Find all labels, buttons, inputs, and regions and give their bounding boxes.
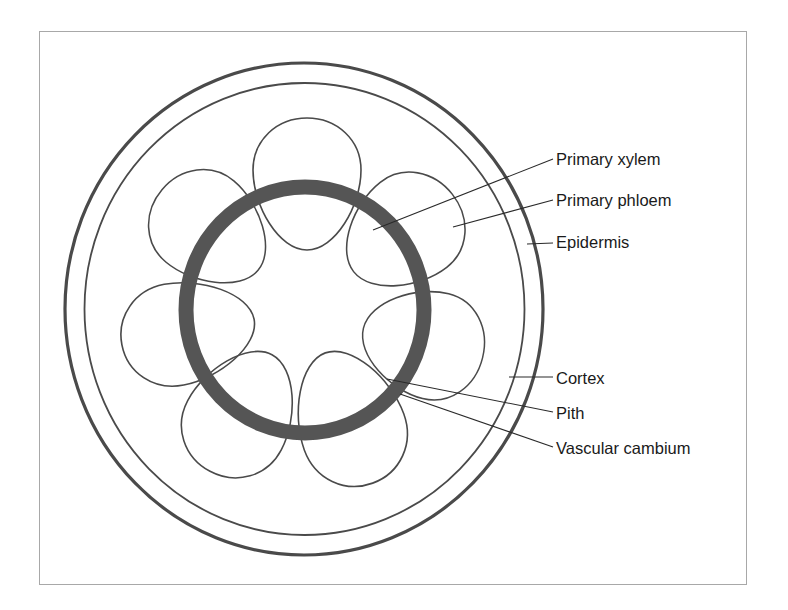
- epidermis-outline: [65, 63, 543, 555]
- leader-epidermis: [527, 243, 553, 244]
- label-pith: Pith: [556, 405, 584, 422]
- stem-cross-section-diagram: [0, 0, 788, 610]
- label-epidermis: Epidermis: [556, 234, 629, 251]
- label-primary-phloem: Primary phloem: [556, 192, 672, 209]
- cortex-inner-outline: [85, 83, 525, 535]
- label-vascular-cambium: Vascular cambium: [556, 440, 691, 457]
- vascular-bundles: [112, 118, 495, 501]
- label-primary-xylem: Primary xylem: [556, 151, 661, 168]
- leader-primary-phloem: [453, 200, 553, 227]
- label-cortex: Cortex: [556, 370, 605, 387]
- leader-vascular-cambium: [400, 394, 553, 447]
